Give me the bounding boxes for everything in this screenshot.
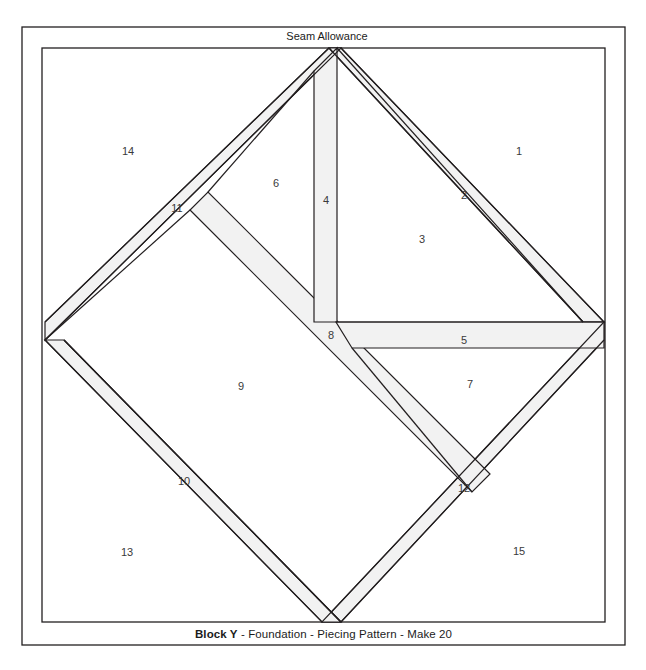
strip-piece-5 bbox=[336, 322, 604, 348]
caption-text: Block Y - Foundation - Piecing Pattern -… bbox=[195, 628, 452, 640]
piece-label-13: 13 bbox=[121, 546, 133, 558]
pattern-sheet: 1 2 3 4 5 6 7 8 9 10 11 12 13 14 15 Seam… bbox=[0, 0, 646, 670]
foundation-piecing-diagram: 1 2 3 4 5 6 7 8 9 10 11 12 13 14 15 Seam… bbox=[0, 0, 646, 670]
caption-bar: Block Y - Foundation - Piecing Pattern -… bbox=[42, 622, 605, 645]
seam-allowance-label: Seam Allowance bbox=[286, 30, 367, 42]
piece-label-5: 5 bbox=[461, 334, 467, 346]
piece-label-7: 7 bbox=[467, 378, 473, 390]
piece-label-3: 3 bbox=[419, 233, 425, 245]
caption-rest: - Foundation - Piecing Pattern - Make 20 bbox=[238, 628, 452, 640]
piece-label-4: 4 bbox=[323, 194, 329, 206]
piece-label-12: 12 bbox=[458, 482, 470, 494]
strip-piece-4 bbox=[314, 48, 337, 322]
piece-label-10: 10 bbox=[178, 475, 190, 487]
piece-label-15: 15 bbox=[513, 545, 525, 557]
piece-label-11: 11 bbox=[171, 202, 182, 214]
piece-label-9: 9 bbox=[238, 380, 244, 392]
piece-label-8: 8 bbox=[328, 329, 334, 341]
piece-label-2: 2 bbox=[461, 189, 467, 201]
caption-block-name: Block Y bbox=[195, 628, 238, 640]
piece-label-6: 6 bbox=[273, 177, 279, 189]
piece-label-14: 14 bbox=[122, 145, 134, 157]
piece-label-1: 1 bbox=[516, 145, 522, 157]
